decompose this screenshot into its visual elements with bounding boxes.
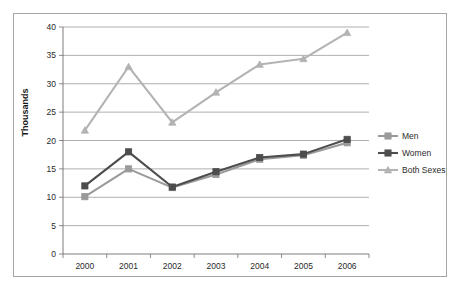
data-point-marker <box>125 166 131 172</box>
y-axis-tick-label: 20 <box>47 136 57 146</box>
line-chart: 0510152025303540Thousands200020012002200… <box>14 14 446 276</box>
y-axis-tick-label: 15 <box>47 164 57 174</box>
series-line <box>85 139 347 187</box>
y-axis-tick-label: 40 <box>47 22 57 32</box>
data-point-marker <box>82 194 88 200</box>
data-point-marker <box>300 151 306 157</box>
data-point-marker <box>125 63 132 69</box>
x-axis-tick-label: 2002 <box>163 261 182 271</box>
x-axis-tick-label: 2005 <box>294 261 313 271</box>
legend-item-label: Women <box>402 148 431 158</box>
x-axis-tick-label: 2004 <box>250 261 269 271</box>
data-point-marker <box>169 184 175 190</box>
legend-item-label: Men <box>402 131 419 141</box>
data-point-marker <box>344 29 351 35</box>
series-both-sexes <box>81 29 350 133</box>
y-axis-tick-label: 10 <box>47 192 57 202</box>
data-point-marker <box>82 183 88 189</box>
x-axis-tick-label: 2003 <box>207 261 226 271</box>
y-axis-tick-label: 25 <box>47 107 57 117</box>
legend-item-label: Both Sexes <box>402 165 445 175</box>
x-axis-tick-label: 2006 <box>338 261 357 271</box>
y-axis-tick-label: 30 <box>47 79 57 89</box>
data-point-marker <box>213 169 219 175</box>
gridlines: 0510152025303540 <box>47 22 369 259</box>
y-axis-title: Thousands <box>20 88 30 136</box>
series-women <box>82 136 350 190</box>
y-axis-tick-label: 0 <box>51 249 56 259</box>
data-point-marker <box>385 133 391 139</box>
x-axis-labels: 2000200120022003200420052006 <box>63 254 369 271</box>
legend: MenWomenBoth Sexes <box>378 131 445 175</box>
data-point-marker <box>344 136 350 142</box>
data-point-marker <box>125 149 131 155</box>
data-point-marker <box>257 154 263 160</box>
chart-container: 0510152025303540Thousands200020012002200… <box>13 13 447 277</box>
series-line <box>85 33 347 131</box>
x-axis-tick-label: 2001 <box>119 261 138 271</box>
x-axis-tick-label: 2000 <box>75 261 94 271</box>
y-axis-tick-label: 5 <box>51 221 56 231</box>
data-point-marker <box>385 150 391 156</box>
y-axis-tick-label: 35 <box>47 50 57 60</box>
